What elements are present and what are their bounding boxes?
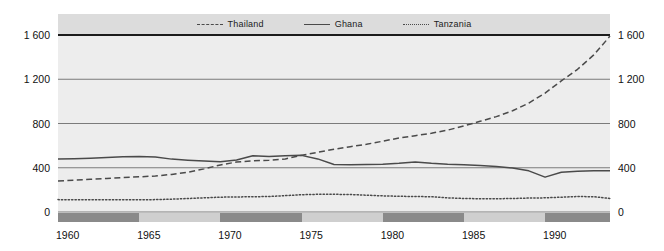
x-tick-label-1970: 1970	[218, 230, 241, 241]
x-tick-label-1990: 1990	[543, 230, 566, 241]
line-chart: Thailand Ghana Tanzania 04008001 2001 60…	[0, 0, 664, 251]
y-tick-label-right-400: 400	[618, 163, 662, 174]
y-tick-label-right-800: 800	[618, 119, 662, 130]
series-line-tanzania	[58, 194, 610, 200]
x-axis-period-bands	[58, 213, 610, 222]
x-tick-label-1960: 1960	[56, 230, 79, 241]
y-tick-label-right-0: 0	[618, 207, 662, 218]
series-line-ghana	[58, 155, 610, 177]
y-tick-label-left-800: 800	[6, 119, 50, 130]
series-line-thailand	[58, 36, 610, 181]
y-tick-label-left-0: 0	[6, 207, 50, 218]
y-tick-label-right-1200: 1 200	[618, 74, 662, 85]
period-band-1970-1975	[220, 213, 301, 222]
x-tick-label-1985: 1985	[462, 230, 485, 241]
period-band-1980-1985	[383, 213, 464, 222]
y-tick-label-left-400: 400	[6, 163, 50, 174]
y-tick-label-left-1600: 1 600	[6, 30, 50, 41]
x-tick-label-1975: 1975	[300, 230, 323, 241]
period-band-1990-1994	[545, 213, 610, 222]
y-tick-label-left-1200: 1 200	[6, 74, 50, 85]
period-band-1960-1965	[58, 213, 139, 222]
x-tick-label-1980: 1980	[381, 230, 404, 241]
x-tick-label-1965: 1965	[137, 230, 160, 241]
y-tick-label-right-1600: 1 600	[618, 30, 662, 41]
